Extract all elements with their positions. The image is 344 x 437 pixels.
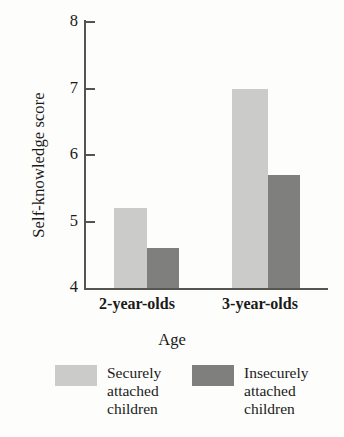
legend-swatch-insecurely-icon bbox=[192, 365, 234, 386]
bar-insecurely-2-year-olds bbox=[147, 248, 179, 288]
y-tick-label-6: 6 bbox=[52, 146, 78, 163]
bar-chart: Self-knowledge score 8 7 6 5 4 2-year-ol… bbox=[0, 0, 344, 437]
legend-entry-securely: Securely attached children bbox=[55, 364, 161, 418]
plot-area bbox=[84, 22, 328, 288]
x-axis-title: Age bbox=[0, 330, 344, 350]
y-tick-label-4: 4 bbox=[52, 279, 78, 296]
legend-entry-insecurely: Insecurely attached children bbox=[192, 364, 309, 418]
y-tick-label-7: 7 bbox=[52, 80, 78, 97]
x-category-label-0: 2-year-olds bbox=[82, 295, 192, 313]
x-category-label-1: 3-year-olds bbox=[205, 295, 315, 313]
x-axis-line bbox=[84, 288, 328, 290]
bar-securely-3-year-olds bbox=[232, 89, 268, 289]
legend-label-insecurely: Insecurely attached children bbox=[244, 364, 309, 418]
y-tick-label-5: 5 bbox=[52, 213, 78, 230]
legend-swatch-securely-icon bbox=[55, 365, 97, 386]
bar-insecurely-3-year-olds bbox=[268, 175, 300, 288]
y-tick-label-8: 8 bbox=[52, 13, 78, 30]
legend: Securely attached children Insecurely at… bbox=[0, 364, 344, 436]
bar-securely-2-year-olds bbox=[114, 208, 147, 288]
y-axis-title: Self-knowledge score bbox=[29, 50, 49, 280]
legend-label-securely: Securely attached children bbox=[107, 364, 161, 418]
